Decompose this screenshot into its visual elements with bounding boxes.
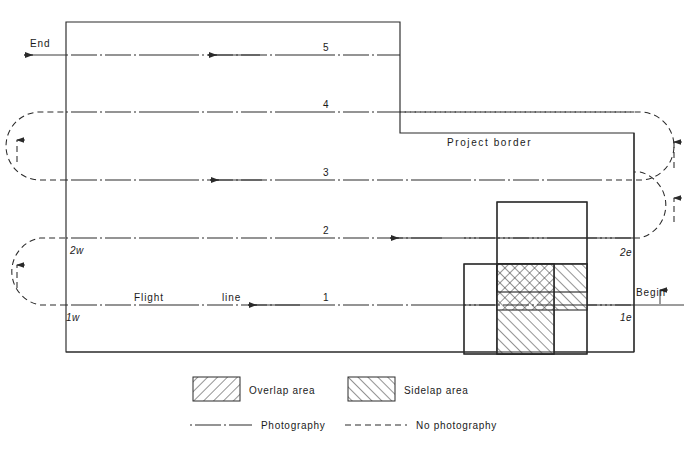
turn-loop-east-lower — [634, 172, 666, 238]
legend-swatch-sidelap — [348, 377, 395, 401]
project-border-label: Project border — [447, 137, 532, 148]
flight-line-label-flight: Flight — [134, 292, 164, 303]
flight-line-2-west-tick: 2w — [69, 245, 84, 256]
legend-label-no-photography: No photography — [416, 420, 497, 431]
legend-swatch-overlap — [193, 377, 240, 401]
turn-loop-west-upper — [6, 112, 66, 180]
flight-line-5-number: 5 — [323, 42, 329, 53]
legend-label-overlap: Overlap area — [249, 385, 315, 396]
flight-plan-diagram: Project border 5 End 4 3 2 2w 2e 1 Fligh… — [0, 0, 697, 452]
begin-label: Begin — [636, 287, 666, 298]
overlap-area-region — [497, 264, 554, 310]
diagram-canvas: Project border 5 End 4 3 2 2w 2e 1 Fligh… — [0, 0, 697, 452]
flight-line-1-east-tick: 1e — [620, 312, 632, 323]
flight-line-2-number: 2 — [323, 225, 329, 236]
overlap-strip-right — [554, 264, 587, 310]
end-label: End — [30, 38, 51, 49]
flight-line-label-line: line — [222, 292, 241, 303]
legend-label-photography: Photography — [261, 420, 325, 431]
flight-line-3-number: 3 — [323, 167, 329, 178]
flight-line-1-number: 1 — [323, 292, 329, 303]
flight-line-4-number: 4 — [323, 99, 329, 110]
turn-loop-east-upper — [400, 112, 674, 180]
turn-loop-west-lower — [12, 238, 66, 305]
legend-label-sidelap: Sidelap area — [404, 385, 469, 396]
flight-line-1-west-tick: 1w — [66, 312, 80, 323]
flight-line-2-east-tick: 2e — [619, 247, 632, 258]
